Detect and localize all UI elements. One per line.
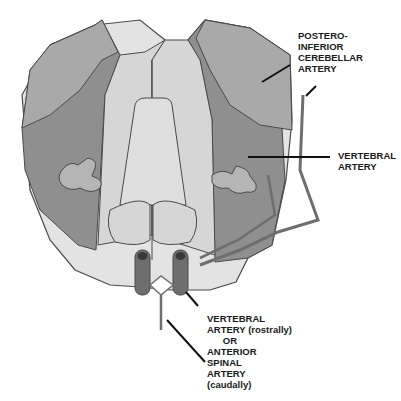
label-vertebral-artery: VERTEBRAL ARTERY (338, 150, 396, 172)
label-pica: POSTERO- INFERIOR CEREBELLAR ARTERY (298, 30, 363, 74)
leader-asa (167, 320, 205, 362)
leader-va-artery (186, 292, 198, 306)
leader-pica-vessel (306, 86, 316, 96)
right-pyramid (153, 201, 197, 245)
left-pyramid (108, 201, 150, 245)
label-vertebral-or-anterior-spinal: VERTEBRAL ARTERY (rostrally) OR ANTERIOR… (207, 313, 292, 390)
